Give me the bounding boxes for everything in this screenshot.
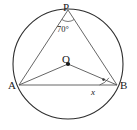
segment-pb bbox=[68, 10, 117, 85]
point-label-o: O bbox=[62, 54, 70, 65]
geometry-canvas bbox=[0, 0, 137, 130]
point-label-a: A bbox=[8, 80, 16, 91]
circle-geometry-figure: P O A B 70° x bbox=[0, 0, 137, 130]
angle-arc-p bbox=[62, 20, 74, 22]
segment-pa bbox=[19, 10, 68, 85]
point-label-p: P bbox=[63, 2, 69, 13]
point-label-b: B bbox=[120, 80, 127, 91]
angle-label-p: 70° bbox=[57, 25, 69, 34]
angle-b-tick-dot bbox=[102, 78, 105, 81]
angle-label-x: x bbox=[91, 88, 95, 97]
